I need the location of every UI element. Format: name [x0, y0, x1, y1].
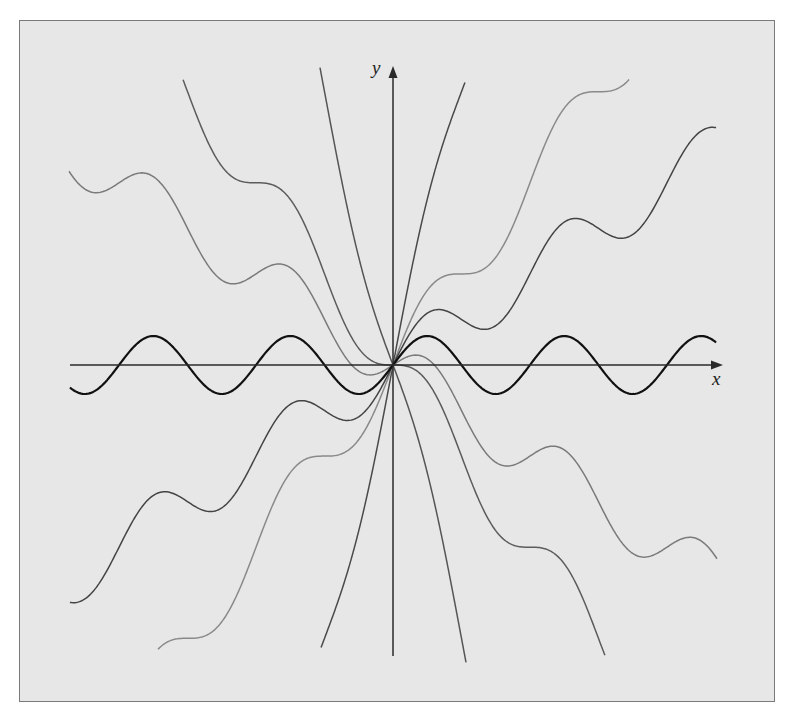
chart-plot-area [0, 0, 791, 722]
y-axis-label: y [372, 57, 380, 79]
y-axis-arrow-icon [389, 66, 398, 78]
x-axis-label: x [712, 368, 720, 390]
